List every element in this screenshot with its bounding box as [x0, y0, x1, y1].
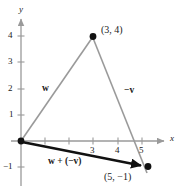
- y-tick-label-1: 1: [9, 110, 14, 119]
- x-axis-label: x: [170, 134, 174, 143]
- origin-dot: [18, 138, 25, 145]
- vector-diagram-figure: y x 3 4 5 4 3 2 1 −1 (3, 4) (5, −1) w −v…: [0, 0, 181, 192]
- point-5-neg1-dot: [145, 163, 152, 170]
- diagram-canvas: [0, 0, 181, 192]
- y-tick-label-4: 4: [8, 31, 13, 40]
- vector-w-line: [21, 38, 92, 141]
- vector-label-w: w: [42, 84, 49, 94]
- vector-label-minus-v: −v: [124, 86, 134, 96]
- point-label-3-4: (3, 4): [101, 25, 123, 35]
- y-tick-label-3: 3: [8, 57, 13, 66]
- y-tick-label-2: 2: [8, 84, 13, 93]
- light-vectors-group: [21, 38, 147, 173]
- point-3-4-dot: [90, 33, 97, 40]
- x-tick-label-5: 5: [139, 146, 144, 155]
- x-tick-label-3: 3: [90, 146, 95, 155]
- point-dots-group: [18, 33, 152, 170]
- x-tick-label-4: 4: [115, 146, 120, 155]
- vector-label-w-plus-minus-v: w + (−v): [48, 157, 82, 167]
- y-tick-label-neg1: −1: [3, 162, 13, 171]
- point-label-5-neg1: (5, −1): [104, 172, 131, 182]
- y-axis-label: y: [19, 5, 23, 14]
